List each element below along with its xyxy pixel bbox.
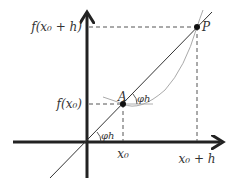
label-y-low: f(x₀) — [56, 97, 83, 111]
label-angle-origin: φh — [101, 130, 114, 141]
label-y-high: f(x₀ + h) — [30, 20, 82, 34]
derivative-diagram: f(x₀ + h) f(x₀) x₀ x₀ + h A P φh φh — [0, 0, 246, 189]
label-point-a: A — [117, 90, 127, 104]
label-angle-a: φh — [137, 93, 150, 104]
label-x-high: x₀ + h — [179, 152, 216, 166]
point-p — [194, 24, 200, 30]
label-x-low: x₀ — [117, 147, 129, 161]
label-point-p: P — [201, 20, 211, 34]
